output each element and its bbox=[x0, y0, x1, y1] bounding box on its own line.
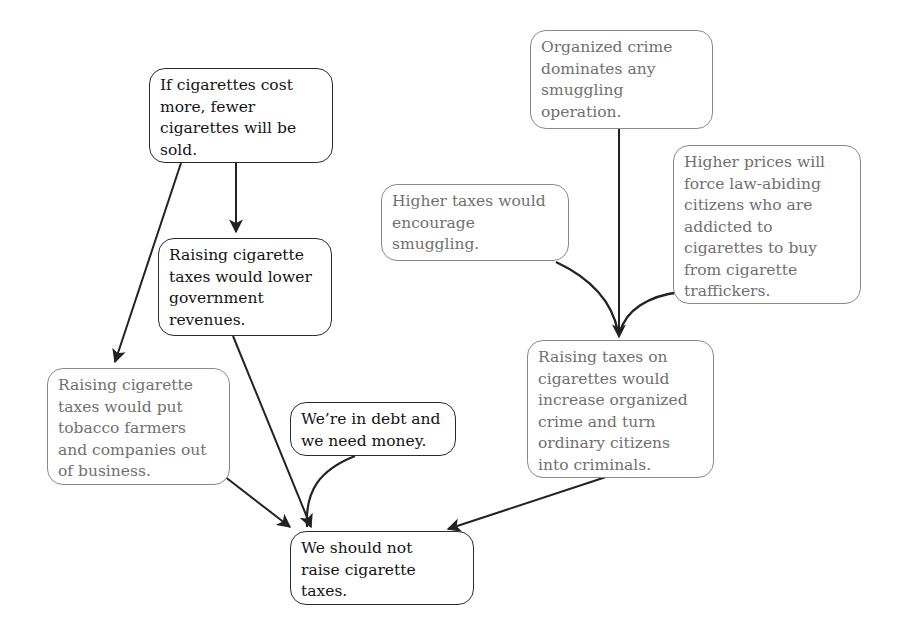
claim-increase-organized-crime: Raising taxes on cigarettes would increa… bbox=[527, 340, 714, 478]
edge-n3-n5 bbox=[224, 476, 290, 527]
edge-n4-n5 bbox=[307, 456, 355, 527]
claim-lower-government-revenues: Raising cigarette taxes would lower gove… bbox=[158, 238, 332, 336]
claim-fewer-cigarettes-sold: If cigarettes cost more, fewer cigarette… bbox=[149, 68, 333, 163]
edge-n8-n9 bbox=[620, 292, 680, 332]
claim-organized-crime-dominates: Organized crime dominates any smuggling … bbox=[530, 30, 713, 129]
edge-n7-n9 bbox=[556, 262, 618, 332]
claim-farmers-out-of-business: Raising cigarette taxes would put tobacc… bbox=[47, 368, 230, 485]
argument-diagram: If cigarettes cost more, fewer cigarette… bbox=[0, 0, 903, 644]
edge-n9-n5 bbox=[448, 477, 606, 529]
claim-encourage-smuggling: Higher taxes would encourage smuggling. bbox=[381, 184, 569, 261]
claim-buy-from-traffickers: Higher prices will force law-abiding cit… bbox=[673, 145, 861, 304]
claim-in-debt-need-money: We’re in debt and we need money. bbox=[290, 402, 456, 456]
conclusion-do-not-raise-taxes: We should not raise cigarette taxes. bbox=[290, 531, 474, 605]
